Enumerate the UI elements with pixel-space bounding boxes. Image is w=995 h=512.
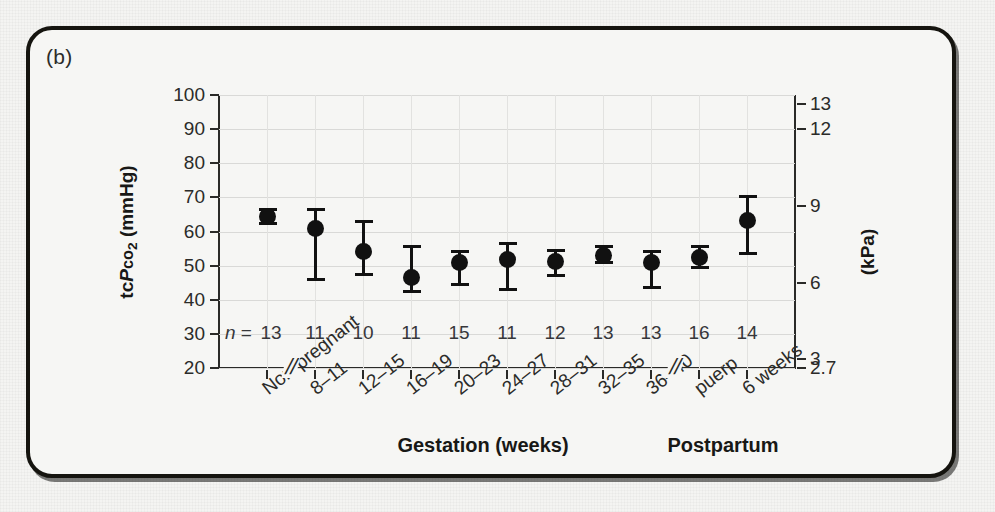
- y-axis-left-tick: [210, 367, 219, 369]
- error-bar-cap-lower: [307, 278, 325, 281]
- y-axis-right-tick-label: 13: [810, 93, 831, 115]
- y-axis-left-tick-label: 30: [184, 323, 205, 345]
- n-value-label: 13: [592, 322, 613, 344]
- error-bar-cap-lower: [499, 288, 517, 291]
- error-bar-cap-upper: [307, 208, 325, 211]
- error-bar-cap-upper: [499, 242, 517, 245]
- figure-root: (b) tcPco2 (mmHg) (kPa) 1009080706050403…: [0, 0, 995, 512]
- y-axis-left-title: tcPco2 (mmHg): [116, 165, 140, 298]
- x-axis-group-title: Postpartum: [667, 434, 778, 457]
- y-axis-right-tick: [797, 367, 806, 369]
- error-bar-cap-upper: [451, 250, 469, 253]
- y-axis-left-tick: [210, 265, 219, 267]
- n-value-label: 12: [544, 322, 565, 344]
- data-point-marker[interactable]: [355, 243, 372, 260]
- data-point-marker[interactable]: [739, 212, 756, 229]
- error-bar-cap-upper: [739, 195, 757, 198]
- y-axis-left-tick: [210, 196, 219, 198]
- data-point-marker[interactable]: [259, 208, 276, 225]
- y-axis-right-tick: [797, 282, 806, 284]
- y-axis-right-tick-label: 6: [810, 272, 821, 294]
- data-point-marker[interactable]: [547, 253, 564, 270]
- y-axis-right-tick: [797, 205, 806, 207]
- y-axis-left-tick-label: 60: [184, 221, 205, 243]
- error-bar-cap-upper: [643, 250, 661, 253]
- n-value-label: 16: [688, 322, 709, 344]
- n-value-label: 13: [640, 322, 661, 344]
- y-axis-left-tick: [210, 231, 219, 233]
- y-axis-left-tick: [210, 162, 219, 164]
- n-value-label: 14: [736, 322, 757, 344]
- error-bar-cap-upper: [403, 245, 421, 248]
- data-point-marker[interactable]: [691, 249, 708, 266]
- error-bar-cap-upper: [547, 249, 565, 252]
- n-value-label: 13: [260, 322, 281, 344]
- data-point-marker[interactable]: [307, 220, 324, 237]
- y-axis-left-tick: [210, 128, 219, 130]
- y-axis-left-tick: [210, 333, 219, 335]
- error-bar-cap-lower: [355, 273, 373, 276]
- error-bar-cap-lower: [739, 252, 757, 255]
- n-value-label: 11: [497, 322, 517, 344]
- y-axis-left-tick-label: 70: [184, 186, 205, 208]
- y-axis-left-tick-label: 100: [173, 84, 205, 106]
- y-axis-right-tick-label: 12: [810, 118, 831, 140]
- x-axis-group-title: Gestation (weeks): [397, 434, 568, 457]
- data-point-marker[interactable]: [595, 247, 612, 264]
- y-axis-right-tick: [797, 128, 806, 130]
- y-axis-right-tick-label: 2.7: [810, 357, 836, 379]
- y-axis-left-tick: [210, 94, 219, 96]
- data-point-marker[interactable]: [451, 254, 468, 271]
- y-axis-left-tick-label: 90: [184, 118, 205, 140]
- error-bar-cap-lower: [643, 286, 661, 289]
- error-bar-cap-lower: [451, 283, 469, 286]
- n-row-prefix: n =: [225, 322, 252, 344]
- y-axis-left-tick-label: 50: [184, 255, 205, 277]
- error-bar-cap-upper: [355, 220, 373, 223]
- error-bar-cap-lower: [547, 274, 565, 277]
- y-axis-right-tick-label: 9: [810, 195, 821, 217]
- data-point-marker[interactable]: [643, 254, 660, 271]
- panel-label-b: (b): [46, 45, 73, 69]
- y-axis-right-tick: [797, 103, 806, 105]
- y-axis-left-tick-label: 40: [184, 289, 205, 311]
- error-bar-cap-lower: [403, 290, 421, 293]
- error-bar-cap-lower: [691, 266, 709, 269]
- n-value-label: 11: [401, 322, 421, 344]
- error-bar-cap-upper: [691, 245, 709, 248]
- data-point-marker[interactable]: [403, 269, 420, 286]
- n-value-label: 15: [448, 322, 469, 344]
- y-axis-right-title: (kPa): [857, 229, 879, 275]
- y-axis-left-tick-label: 80: [184, 152, 205, 174]
- data-point-marker[interactable]: [499, 251, 516, 268]
- y-axis-left-tick-label: 20: [184, 357, 205, 379]
- y-axis-left-tick: [210, 299, 219, 301]
- error-bar-line: [314, 208, 317, 281]
